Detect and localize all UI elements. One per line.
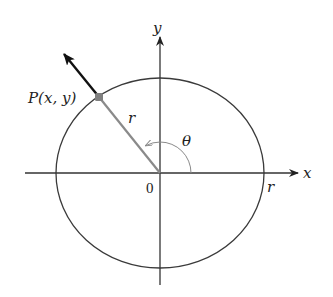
origin-label: 0 [146, 180, 154, 196]
angle-label: θ [182, 132, 191, 150]
radius-label-segment: r [128, 109, 136, 127]
point-p-marker [95, 93, 103, 101]
radius-label-axis: r [267, 178, 275, 196]
point-label: P(x, y) [27, 89, 76, 107]
y-axis-label: y [152, 19, 162, 37]
x-axis-label: x [303, 164, 312, 182]
diagram-canvas: y x 0 P(x, y) r r θ [0, 0, 333, 297]
